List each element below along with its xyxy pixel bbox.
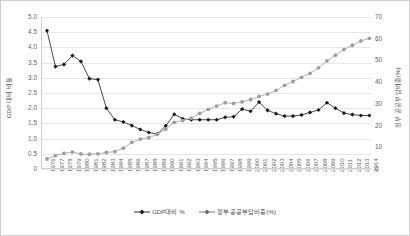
data-point-marker bbox=[283, 84, 287, 88]
data-point-marker bbox=[291, 114, 295, 118]
data-point-marker bbox=[300, 75, 304, 79]
y-axis-left-tick-label: 5.0 bbox=[11, 13, 37, 20]
data-point-marker bbox=[249, 98, 253, 102]
y-axis-right-tick-label: 50 bbox=[375, 56, 401, 63]
data-point-marker bbox=[62, 151, 66, 155]
data-point-marker bbox=[308, 72, 312, 76]
data-point-marker bbox=[215, 118, 219, 122]
data-point-marker bbox=[257, 95, 261, 99]
data-point-marker bbox=[147, 130, 151, 134]
data-point-marker bbox=[121, 146, 125, 150]
data-point-marker bbox=[104, 151, 108, 155]
data-point-marker bbox=[198, 118, 202, 122]
legend-item[interactable]: 정부 공공부담비중(%) bbox=[199, 207, 276, 216]
chart-container: GDP 대비 비율 정부 공공부담비중(%) 5.04.54.03.53.02.… bbox=[0, 0, 410, 236]
data-point-marker bbox=[223, 101, 227, 105]
y-axis-left-tick-label: 0.5 bbox=[11, 150, 37, 157]
data-point-marker bbox=[121, 120, 125, 124]
plot-area bbox=[41, 17, 371, 169]
data-point-marker bbox=[130, 140, 134, 144]
data-point-marker bbox=[172, 120, 176, 124]
y-axis-left-tick-label: 1.5 bbox=[11, 119, 37, 126]
data-point-marker bbox=[147, 136, 151, 140]
data-point-marker bbox=[181, 119, 185, 123]
data-point-marker bbox=[359, 39, 363, 43]
data-point-marker bbox=[240, 100, 244, 104]
data-point-marker bbox=[88, 152, 92, 156]
data-point-marker bbox=[325, 59, 329, 63]
data-point-marker bbox=[79, 152, 83, 156]
data-point-marker bbox=[45, 157, 49, 161]
data-point-marker bbox=[198, 112, 202, 116]
data-point-marker bbox=[189, 116, 193, 120]
data-point-marker bbox=[215, 104, 219, 108]
data-point-marker bbox=[96, 152, 100, 156]
data-point-marker bbox=[206, 107, 210, 111]
data-point-marker bbox=[138, 127, 142, 131]
data-point-marker bbox=[274, 112, 278, 116]
data-point-marker bbox=[54, 154, 58, 158]
data-point-marker bbox=[350, 112, 354, 116]
legend-label: GDP대비 % bbox=[152, 207, 185, 216]
y-axis-left-tick-label: 3.0 bbox=[11, 74, 37, 81]
gridline bbox=[41, 169, 371, 170]
y-axis-left-tick-label: 4.0 bbox=[11, 43, 37, 50]
y-axis-left-tick-label: 3.5 bbox=[11, 59, 37, 66]
data-point-marker bbox=[350, 43, 354, 47]
data-point-marker bbox=[96, 78, 100, 82]
y-axis-right-tick-label: 30 bbox=[375, 100, 401, 107]
y-axis-left-tick-label: 0 bbox=[11, 165, 37, 172]
data-point-marker bbox=[274, 88, 278, 92]
legend-item[interactable]: GDP대비 % bbox=[134, 207, 185, 216]
data-point-marker bbox=[45, 29, 49, 33]
data-point-marker bbox=[223, 115, 227, 119]
data-point-marker bbox=[334, 53, 338, 57]
data-point-marker bbox=[342, 48, 346, 52]
data-point-marker bbox=[291, 80, 295, 84]
data-point-marker bbox=[113, 150, 117, 154]
data-point-marker bbox=[359, 113, 363, 117]
data-point-marker bbox=[367, 36, 371, 40]
y-axis-left-tick-label: 4.5 bbox=[11, 28, 37, 35]
data-point-marker bbox=[130, 123, 134, 127]
y-axis-right-tick-label: 60 bbox=[375, 35, 401, 42]
y-axis-right-tick-label: 20 bbox=[375, 122, 401, 129]
data-point-marker bbox=[138, 137, 142, 141]
legend-marker-icon bbox=[199, 208, 215, 216]
data-point-marker bbox=[342, 111, 346, 115]
data-series-layer bbox=[41, 17, 371, 169]
y-axis-right-tick-label: 40 bbox=[375, 78, 401, 85]
data-point-marker bbox=[71, 150, 75, 154]
data-point-marker bbox=[87, 77, 91, 81]
y-axis-right-tick-label: 70 bbox=[375, 13, 401, 20]
data-point-marker bbox=[232, 102, 236, 106]
data-point-marker bbox=[206, 118, 210, 122]
data-point-marker bbox=[164, 127, 168, 131]
y-axis-left-tick-label: 2.5 bbox=[11, 89, 37, 96]
legend-marker-icon bbox=[134, 208, 150, 216]
data-point-marker bbox=[308, 110, 312, 114]
data-point-marker bbox=[317, 66, 321, 70]
data-point-marker bbox=[53, 64, 57, 68]
y-axis-left-tick-label: 2.0 bbox=[11, 104, 37, 111]
data-point-marker bbox=[367, 113, 371, 117]
data-point-marker bbox=[282, 114, 286, 118]
series-line bbox=[47, 38, 369, 159]
data-point-marker bbox=[266, 92, 270, 96]
y-axis-right-tick-label: 10 bbox=[375, 143, 401, 150]
chart-legend: GDP대비 %정부 공공부담비중(%) bbox=[1, 207, 409, 216]
data-point-marker bbox=[299, 113, 303, 117]
data-point-marker bbox=[333, 106, 337, 110]
x-axis-tick-label: 2014 bbox=[372, 158, 379, 172]
legend-label: 정부 공공부담비중(%) bbox=[217, 207, 276, 216]
y-axis-left-tick-label: 1.0 bbox=[11, 135, 37, 142]
data-point-marker bbox=[155, 132, 159, 136]
